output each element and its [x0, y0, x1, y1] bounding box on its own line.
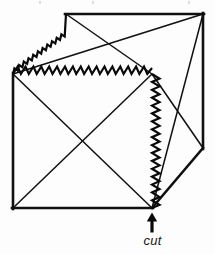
- cut-edge-front-right-vertical: [152, 74, 160, 208]
- cut-edges: [13, 14, 160, 208]
- top-diagonal-b: [66, 14, 152, 74]
- up-arrow-icon: [147, 213, 157, 233]
- cut-label-wrapper: cut: [0, 233, 215, 248]
- cube-diagram: [0, 0, 215, 254]
- cut-label: cut: [144, 233, 162, 248]
- face-diagonals: [13, 14, 203, 208]
- cut-arrow: [147, 213, 157, 233]
- figure-container: cut: [0, 0, 215, 254]
- cut-edge-top-front-horizontal: [13, 67, 152, 75]
